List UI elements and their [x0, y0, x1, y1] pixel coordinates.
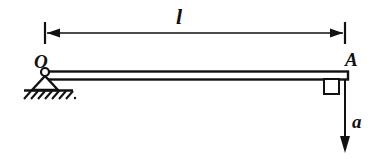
end-point-label: A [345, 50, 358, 69]
acceleration-arrow-group [340, 79, 350, 153]
acceleration-label: a [352, 112, 362, 131]
length-label: l [176, 6, 182, 28]
ground-hatching [24, 91, 73, 99]
right-angle-marker-group [324, 79, 339, 94]
dimension-arrowhead-right [330, 29, 343, 38]
right-angle-marker [324, 79, 339, 94]
acceleration-arrow-head [340, 136, 350, 153]
pivot-point-label: O [34, 52, 48, 71]
diagram-canvas [0, 0, 388, 165]
length-dimension-group [45, 22, 345, 44]
ground-group [24, 91, 76, 100]
dimension-arrowhead-left [47, 29, 60, 38]
mechanics-beam-diagram: l O A a [0, 0, 388, 165]
ground-hatch-end-dot [74, 97, 76, 99]
beam-group [45, 72, 348, 80]
rigid-beam-OA [45, 72, 348, 80]
